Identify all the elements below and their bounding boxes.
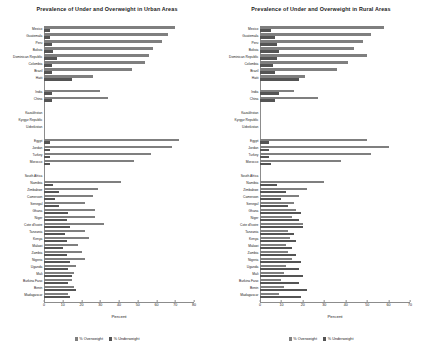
category-label: Mali	[36, 273, 42, 276]
bar-underweight	[260, 247, 292, 249]
bar-overweight	[44, 139, 179, 141]
bar-row: Cote d'Ivoire	[44, 222, 194, 229]
bar-row: Guatemala	[44, 33, 194, 40]
x-tick-label: 10	[61, 303, 65, 307]
category-label: Mexico	[248, 28, 258, 31]
bar-underweight	[44, 57, 57, 59]
bar-row: Namibia	[260, 180, 410, 187]
category-label: Senegal	[30, 203, 42, 206]
x-tick-label: 10	[279, 303, 283, 307]
bar-underweight	[44, 71, 52, 73]
bar-row: Turkey	[260, 152, 410, 159]
category-label: China	[250, 98, 259, 101]
category-label: Namibia	[30, 182, 42, 185]
bar-underweight	[44, 198, 55, 200]
category-label: India	[251, 91, 258, 94]
chart-panel-rural: Prevalence of Under and Overweight in Ru…	[214, 0, 428, 353]
bar-row: Bolivia	[260, 47, 410, 54]
bar-underweight	[44, 247, 63, 249]
category-label: Uganda	[31, 266, 43, 269]
category-label: Egypt	[250, 140, 258, 143]
bar-underweight	[44, 64, 52, 66]
bar-underweight	[260, 226, 303, 228]
x-tick-label: 70	[173, 303, 177, 307]
bar-underweight	[260, 78, 299, 80]
bar-rows-urban: MexicoGuatemalaPeruBoliviaDominican Repu…	[44, 26, 194, 303]
category-label: Madagascar	[240, 294, 258, 297]
bar-underweight	[44, 296, 70, 298]
bar-overweight	[44, 26, 175, 28]
legend-swatch-icon	[75, 337, 78, 340]
bar-underweight	[260, 275, 303, 277]
bar-row: Zimbabwe	[260, 187, 410, 194]
category-label: Kenya	[33, 238, 42, 241]
category-label: Nigeria	[32, 259, 42, 262]
category-label: China	[34, 98, 43, 101]
bar-row: Turkey	[44, 152, 194, 159]
group-spacer	[260, 166, 410, 173]
bar-underweight	[260, 141, 269, 143]
bar-underweight	[44, 205, 59, 207]
bar-overweight	[44, 47, 153, 49]
x-axis-ticks-rural: 010203040506070	[260, 303, 410, 311]
x-tick-label: 80	[192, 303, 196, 307]
category-label: Mali	[252, 273, 258, 276]
bar-row: Zimbabwe	[44, 187, 194, 194]
chart-panel-urban: Prevalence of Under and Overweight in Ur…	[0, 0, 214, 353]
category-label: Brazil	[34, 70, 42, 73]
bar-row: Uganda	[44, 264, 194, 271]
bar-overweight	[260, 61, 348, 63]
category-label: Turkey	[32, 154, 42, 157]
bar-overweight	[260, 26, 384, 28]
bar-underweight	[44, 254, 67, 256]
legend-rural: % Overweight% Underweight	[214, 337, 428, 341]
chart-title-urban: Prevalence of Under and Overweight in Ur…	[0, 6, 214, 12]
category-label: Benin	[250, 287, 258, 290]
bar-row: Mali	[44, 271, 194, 278]
bar-row: Colombia	[260, 61, 410, 68]
bar-row: Mexico	[260, 26, 410, 33]
bar-row: Jordan	[44, 145, 194, 152]
category-label: Cote d'Ivoire	[24, 224, 42, 227]
bar-overweight	[44, 181, 121, 183]
bar-row: Kazakhstan	[44, 110, 194, 117]
bar-row: Egypt	[44, 138, 194, 145]
legend-item: % Overweight	[75, 337, 103, 341]
category-label: Haiti	[36, 77, 43, 80]
group-spacer	[44, 166, 194, 173]
legend-item: % Underweight	[109, 337, 140, 341]
bar-row: Zambia	[44, 250, 194, 257]
legend-urban: % Overweight% Underweight	[0, 337, 214, 341]
bar-row: Burkina Faso	[260, 278, 410, 285]
bar-overweight	[260, 160, 341, 162]
category-label: Morocco	[246, 161, 259, 164]
bar-row: India	[260, 89, 410, 96]
x-tick-label: 0	[43, 303, 45, 307]
category-label: Burkina Faso	[23, 280, 42, 283]
category-label: Kyrgyz Republic	[235, 119, 259, 122]
category-label: Uzbekistan	[26, 126, 42, 129]
bar-underweight	[260, 64, 273, 66]
bar-row: Kazakhstan	[260, 110, 410, 117]
bar-row: Uzbekistan	[44, 124, 194, 131]
bar-row: Kyrgyz Republic	[44, 117, 194, 124]
bar-row: China	[260, 96, 410, 103]
bar-underweight	[44, 226, 70, 228]
bar-row: Kyrgyz Republic	[260, 117, 410, 124]
category-label: Zimbabwe	[243, 189, 258, 192]
bar-row: Namibia	[44, 180, 194, 187]
x-tick-label: 30	[322, 303, 326, 307]
bar-row: Malawi	[44, 243, 194, 250]
legend-swatch-icon	[323, 337, 326, 340]
category-label: Tanzania	[29, 231, 42, 234]
category-label: Madagascar	[24, 294, 42, 297]
bar-row: Madagascar	[44, 292, 194, 299]
category-label: Burkina Faso	[239, 280, 258, 283]
bar-row: Niger	[44, 215, 194, 222]
category-label: Brazil	[250, 70, 258, 73]
bar-row: South Africa	[260, 173, 410, 180]
bar-underweight	[260, 212, 301, 214]
x-axis-label-rural: Percent	[260, 314, 410, 319]
category-label: Benin	[34, 287, 42, 290]
bar-underweight	[44, 36, 50, 38]
